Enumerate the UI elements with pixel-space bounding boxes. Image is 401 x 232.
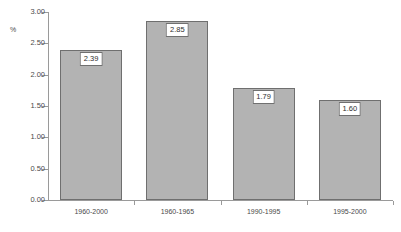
y-tick-label: 3.00 xyxy=(30,7,45,16)
bar-column[interactable]: 1.60 xyxy=(319,100,381,200)
x-tick-mark xyxy=(393,201,394,205)
bar-column[interactable]: 1.79 xyxy=(233,88,295,200)
bar[interactable] xyxy=(233,88,295,200)
bar-chart: % 3.002.502.001.501.000.500.00 2.392.851… xyxy=(0,0,401,232)
bar-value-label: 1.60 xyxy=(339,102,362,116)
bar-column[interactable]: 2.39 xyxy=(60,50,122,200)
x-tick-mark xyxy=(134,201,135,205)
bars-layer: 2.392.851.791.60 xyxy=(48,12,393,201)
bar-value-label: 1.79 xyxy=(252,90,275,104)
y-axis-unit-label: % xyxy=(10,26,16,33)
y-tick-label: 1.00 xyxy=(30,132,45,141)
bar-column[interactable]: 2.85 xyxy=(146,21,208,200)
x-category-label: 1960-1965 xyxy=(134,208,220,215)
bar-value-label: 2.85 xyxy=(166,23,189,37)
bar[interactable] xyxy=(146,21,208,200)
bar[interactable] xyxy=(60,50,122,200)
x-category-label: 1995-2000 xyxy=(307,208,393,215)
y-tick-label: 2.50 xyxy=(30,38,45,47)
y-tick-label: 0.50 xyxy=(30,164,45,173)
y-tick-label: 0.00 xyxy=(30,195,45,204)
x-category-label: 1960-2000 xyxy=(48,208,134,215)
plot-area: 3.002.502.001.501.000.500.00 2.392.851.7… xyxy=(48,12,393,201)
bar-value-label: 2.39 xyxy=(80,52,103,66)
y-tick-label: 1.50 xyxy=(30,101,45,110)
x-tick-mark xyxy=(221,201,222,205)
x-tick-mark xyxy=(307,201,308,205)
y-tick-label: 2.00 xyxy=(30,70,45,79)
x-category-label: 1990-1995 xyxy=(221,208,307,215)
